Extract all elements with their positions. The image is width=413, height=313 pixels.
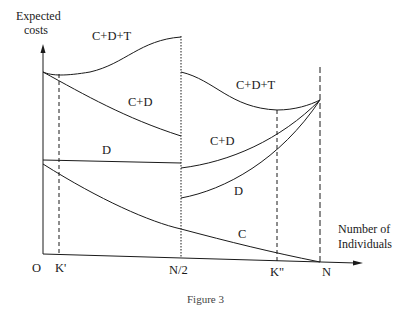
tick-k-double-prime: K" [270, 265, 284, 279]
y-axis-arrow-icon [41, 44, 46, 53]
y-axis-title-line1: Expected [16, 9, 61, 23]
curve-cd-left [43, 72, 181, 136]
label-d-left: D [102, 143, 111, 157]
curve-cd-right [181, 100, 320, 168]
label-cd-left: C+D [128, 95, 152, 109]
x-axis [43, 254, 363, 266]
tick-n: N [322, 265, 331, 279]
label-cdt-right: C+D+T [236, 78, 275, 92]
y-axis-title-line2: costs [24, 23, 48, 37]
x-axis-title-line1: Number of [338, 222, 390, 236]
curve-d-left [43, 160, 181, 163]
label-c: C [238, 227, 246, 241]
figure-caption: Figure 3 [187, 293, 224, 305]
label-cd-right: C+D [210, 134, 234, 148]
cost-diagram: C+D+T C+D D C+D+T C+D D C Expected costs… [0, 0, 413, 313]
x-axis-arrow-icon [353, 261, 363, 266]
curve-d-right [181, 100, 320, 198]
tick-origin: O [32, 261, 41, 275]
x-axis-title-line2: Individuals [338, 237, 392, 251]
label-d-right: D [234, 184, 243, 198]
tick-k-prime: K' [55, 261, 66, 275]
tick-n-half: N/2 [169, 263, 188, 277]
label-cdt-left: C+D+T [92, 29, 131, 43]
y-axis [41, 44, 46, 254]
